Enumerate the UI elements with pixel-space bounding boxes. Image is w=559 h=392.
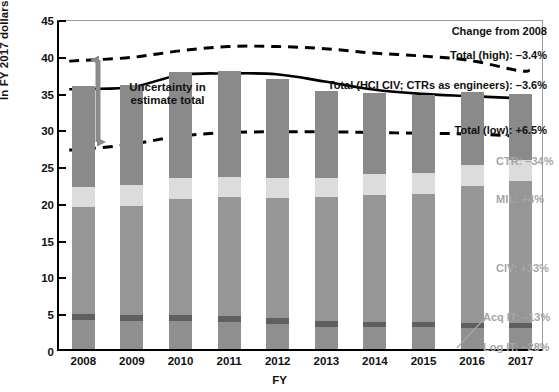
- bar-2012[interactable]: [266, 79, 289, 349]
- bar-segment-civ[interactable]: [461, 186, 484, 323]
- bar-segment-ctr[interactable]: [315, 91, 338, 178]
- bar-segment-ctr[interactable]: [72, 86, 95, 187]
- bar-segment-acq-it[interactable]: [169, 315, 192, 321]
- bar-segment-civ[interactable]: [412, 194, 435, 322]
- bar-segment-acq-it[interactable]: [412, 322, 435, 327]
- bar-segment-acq-it[interactable]: [461, 323, 484, 328]
- y-axis-tick-label: 5: [48, 309, 54, 321]
- bar-segment-mil[interactable]: [120, 185, 143, 206]
- bar-2014[interactable]: [363, 93, 386, 349]
- bar-segment-acq-it[interactable]: [266, 318, 289, 324]
- bar-segment-acq-it[interactable]: [315, 321, 338, 327]
- y-axis-tick-label: 35: [41, 89, 54, 101]
- bar-segment-log-it[interactable]: [315, 327, 338, 349]
- x-axis-tick-label: 2008: [71, 355, 97, 367]
- bar-segment-mil[interactable]: [363, 174, 386, 195]
- bar-segment-ctr[interactable]: [266, 79, 289, 178]
- bar-segment-log-it[interactable]: [363, 327, 386, 349]
- y-axis-tick-label: 20: [41, 199, 54, 211]
- y-axis-tick-mark: [59, 20, 66, 22]
- plot-area: 0510152025303540452008200920102011201220…: [57, 20, 543, 351]
- y-axis-tick-label: 0: [48, 346, 54, 358]
- bar-segment-acq-it[interactable]: [509, 323, 532, 328]
- bar-segment-civ[interactable]: [72, 207, 95, 314]
- bar-segment-log-it[interactable]: [461, 328, 484, 349]
- x-axis-tick-label: 2013: [314, 355, 340, 367]
- y-axis-title: In FY 2017 dollars (billions): [0, 0, 10, 100]
- annotation-total-mid: Total (HCI CIV; CTRs as engineers): –3.6…: [328, 79, 547, 91]
- bar-segment-mil[interactable]: [218, 177, 241, 198]
- bar-segment-mil[interactable]: [72, 187, 95, 207]
- y-axis-tick-mark: [59, 167, 66, 169]
- bar-segment-civ[interactable]: [169, 199, 192, 315]
- bar-segment-mil[interactable]: [266, 178, 289, 199]
- bar-segment-civ[interactable]: [315, 197, 338, 321]
- bar-2008[interactable]: [72, 86, 95, 349]
- x-axis-tick-label: 2010: [168, 355, 194, 367]
- bar-segment-log-it[interactable]: [266, 324, 289, 349]
- bar-2013[interactable]: [315, 91, 338, 349]
- bar-segment-acq-it[interactable]: [120, 315, 143, 321]
- bar-segment-mil[interactable]: [461, 165, 484, 186]
- x-axis-tick-label: 2017: [508, 355, 534, 367]
- y-axis-tick-mark: [59, 204, 66, 206]
- bar-segment-mil[interactable]: [315, 178, 338, 198]
- bar-segment-mil[interactable]: [412, 173, 435, 194]
- bar-segment-civ[interactable]: [363, 195, 386, 322]
- y-axis-tick-mark: [59, 57, 66, 59]
- x-axis-tick-label: 2011: [217, 355, 242, 367]
- bar-segment-acq-it[interactable]: [218, 316, 241, 322]
- y-axis-tick-mark: [59, 277, 66, 279]
- x-axis-tick-label: 2012: [265, 355, 291, 367]
- bar-segment-log-it[interactable]: [412, 327, 435, 349]
- bar-2010[interactable]: [169, 72, 192, 349]
- uncertainty-caption-line1: Uncertainty in: [129, 81, 206, 93]
- y-axis-tick-mark: [59, 130, 66, 132]
- x-axis-tick-label: 2014: [362, 355, 388, 367]
- uncertainty-caption: Uncertainty in estimate total: [110, 81, 225, 107]
- bar-segment-ctr[interactable]: [363, 93, 386, 174]
- annotation-change-header: Change from 2008: [452, 25, 547, 37]
- x-axis-tick-label: 2009: [119, 355, 145, 367]
- bar-segment-acq-it[interactable]: [72, 314, 95, 320]
- x-axis-title: FY: [0, 374, 559, 386]
- y-axis-tick-label: 40: [41, 52, 54, 64]
- y-axis-tick-label: 10: [41, 272, 54, 284]
- y-axis-tick-label: 45: [41, 15, 54, 27]
- y-axis-tick-mark: [59, 314, 66, 316]
- bar-2011[interactable]: [218, 71, 241, 349]
- y-axis-tick-label: 30: [41, 125, 54, 137]
- chart-root: In FY 2017 dollars (billions) FY 0510152…: [0, 0, 559, 392]
- legend-label-mil: MIL: +4%: [496, 193, 544, 205]
- bar-segment-civ[interactable]: [120, 206, 143, 316]
- bar-segment-civ[interactable]: [266, 198, 289, 318]
- bar-segment-log-it[interactable]: [169, 321, 192, 349]
- x-axis-tick-label: 2016: [459, 355, 485, 367]
- x-axis-tick-label: 2015: [411, 355, 437, 367]
- y-axis-tick-label: 15: [41, 236, 54, 248]
- bar-segment-ctr[interactable]: [412, 95, 435, 174]
- legend-label-acq-it: Acq IT: –13%: [483, 311, 550, 323]
- annotation-total-high: Total (high): –3.4%: [450, 49, 547, 61]
- bar-segment-log-it[interactable]: [72, 320, 95, 349]
- legend-label-civ: CIV: +33%: [496, 262, 549, 274]
- bar-2009[interactable]: [120, 85, 143, 349]
- bar-2015[interactable]: [412, 95, 435, 350]
- bar-segment-log-it[interactable]: [218, 322, 241, 349]
- legend-label-ctr: CTR: –34%: [496, 155, 553, 167]
- y-axis-tick-label: 25: [41, 162, 54, 174]
- bar-segment-civ[interactable]: [218, 197, 241, 315]
- bar-segment-acq-it[interactable]: [363, 322, 386, 327]
- annotation-total-low: Total (low): +6.5%: [455, 124, 547, 136]
- y-axis-tick-mark: [59, 241, 66, 243]
- y-axis-tick-mark: [59, 94, 66, 96]
- legend-label-log-it: Log IT: –28%: [483, 341, 550, 353]
- bar-segment-mil[interactable]: [169, 178, 192, 199]
- uncertainty-caption-line2: estimate total: [130, 94, 204, 106]
- bar-segment-log-it[interactable]: [120, 321, 143, 349]
